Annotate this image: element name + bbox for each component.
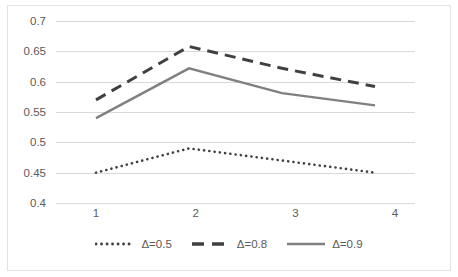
x-axis-line	[56, 203, 415, 204]
y-tick-label: 0.7	[30, 15, 46, 27]
legend-item-delta-0-9: Δ=0.9	[286, 238, 362, 250]
chart-container: 0.7 0.65 0.6 0.55 0.5 0.45 0.4 1 2 3 4	[0, 0, 458, 277]
x-tick-label: 3	[292, 207, 298, 219]
chart-legend: Δ=0.5 Δ=0.8 Δ=0.9	[0, 238, 458, 250]
legend-label: Δ=0.8	[237, 238, 267, 250]
series-line-delta-0-5	[96, 148, 375, 172]
y-tick-label: 0.6	[30, 76, 46, 88]
plot-area	[56, 21, 415, 203]
legend-swatch-dotted-icon	[95, 239, 135, 249]
legend-swatch-dashed-icon	[191, 239, 231, 249]
y-tick-label: 0.55	[24, 106, 46, 118]
legend-swatch-solid-icon	[286, 239, 326, 249]
legend-item-delta-0-8: Δ=0.8	[191, 238, 267, 250]
x-tick-label: 2	[192, 207, 198, 219]
y-axis-labels: 0.7 0.65 0.6 0.55 0.5 0.45 0.4	[0, 21, 50, 203]
y-tick-label: 0.4	[30, 197, 46, 209]
y-tick-label: 0.65	[24, 45, 46, 57]
y-tick-label: 0.45	[24, 167, 46, 179]
x-axis-labels: 1 2 3 4	[56, 205, 415, 225]
x-tick-label: 1	[93, 207, 99, 219]
series-line-delta-0-9	[96, 68, 375, 118]
legend-item-delta-0-5: Δ=0.5	[95, 238, 171, 250]
series-plot	[56, 21, 415, 203]
y-tick-label: 0.5	[30, 136, 46, 148]
x-tick-label: 4	[392, 207, 398, 219]
legend-label: Δ=0.5	[141, 238, 171, 250]
series-line-delta-0-8	[96, 46, 375, 99]
legend-label: Δ=0.9	[332, 238, 362, 250]
